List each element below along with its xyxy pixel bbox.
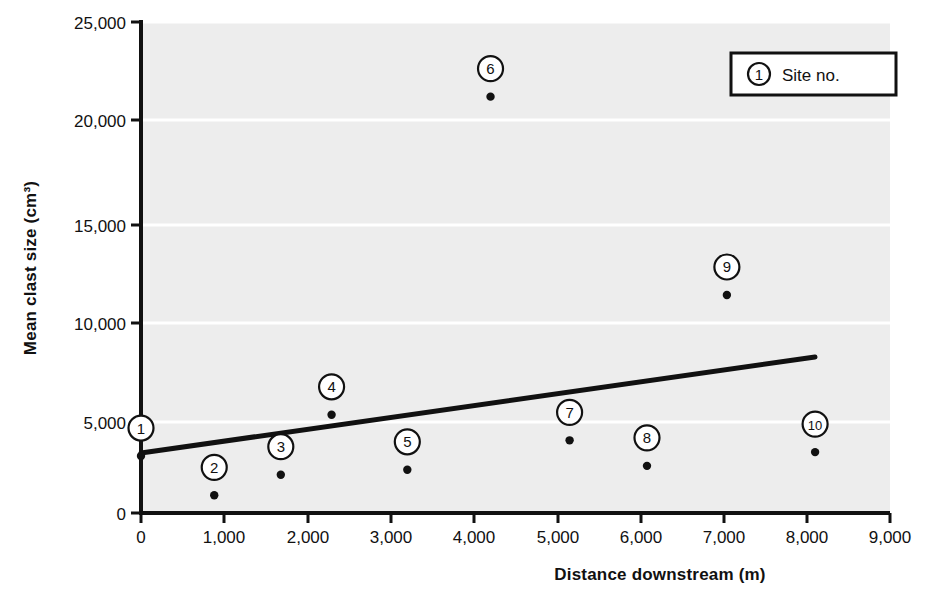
x-tick-label-8000: 8,000 (786, 528, 829, 547)
y-axis-tick-labels: 25,000 20,000 15,000 10,000 5,000 0 (74, 14, 126, 524)
y-tick-label-5000: 5,000 (83, 414, 126, 433)
x-tick-label-2000: 2,000 (287, 528, 330, 547)
data-point-marker (811, 448, 819, 456)
site-label-text: 2 (210, 459, 218, 476)
x-tick-label-4000: 4,000 (453, 528, 496, 547)
y-axis-title: Mean clast size (cm³) (21, 181, 40, 355)
data-point-marker (723, 291, 731, 299)
data-point-marker (137, 452, 145, 460)
x-tick-label-9000: 9,000 (869, 528, 912, 547)
x-tick-label-3000: 3,000 (370, 528, 413, 547)
y-tick-label-0: 0 (117, 505, 126, 524)
legend: 1 Site no. (731, 53, 896, 95)
chart-canvas: 25,000 20,000 15,000 10,000 5,000 0 0 1,… (0, 0, 935, 599)
site-label-text: 4 (327, 378, 335, 395)
legend-label-text: Site no. (782, 66, 840, 85)
scatter-plot-figure: 25,000 20,000 15,000 10,000 5,000 0 0 1,… (0, 0, 935, 599)
y-tick-label-10000: 10,000 (74, 315, 126, 334)
site-label-text: 9 (723, 258, 731, 275)
data-point-marker (327, 411, 335, 419)
site-label-text: 10 (808, 418, 822, 433)
site-label-text: 6 (486, 60, 494, 77)
x-tick-label-1000: 1,000 (203, 528, 246, 547)
site-label-text: 8 (643, 429, 651, 446)
x-axis-tick-labels: 0 1,000 2,000 3,000 4,000 5,000 6,000 7,… (136, 528, 911, 547)
x-tick-label-0: 0 (136, 528, 145, 547)
y-tick-label-25000: 25,000 (74, 14, 126, 33)
y-tick-label-15000: 15,000 (74, 217, 126, 236)
x-axis-title: Distance downstream (m) (554, 565, 765, 584)
y-tick-label-20000: 20,000 (74, 112, 126, 131)
x-tick-label-6000: 6,000 (620, 528, 663, 547)
data-point-marker (210, 491, 218, 499)
site-label-text: 3 (277, 438, 285, 455)
data-point-marker (643, 462, 651, 470)
data-point-marker (486, 92, 494, 100)
x-tick-label-5000: 5,000 (537, 528, 580, 547)
legend-site-symbol-label: 1 (755, 66, 763, 83)
x-tick-label-7000: 7,000 (703, 528, 746, 547)
site-label-text: 5 (403, 433, 411, 450)
data-point-marker (277, 471, 285, 479)
data-point-marker (403, 466, 411, 474)
site-label-text: 7 (565, 404, 573, 421)
site-label-text: 1 (137, 420, 145, 437)
data-point-marker (565, 436, 573, 444)
